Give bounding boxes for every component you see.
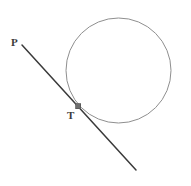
geometry-canvas — [0, 0, 191, 186]
circle-shape — [66, 18, 171, 123]
label-point-t: T — [67, 110, 74, 121]
geometry-figure: P T — [0, 0, 191, 186]
tangent-point-marker — [76, 104, 81, 109]
label-point-p: P — [11, 37, 18, 48]
